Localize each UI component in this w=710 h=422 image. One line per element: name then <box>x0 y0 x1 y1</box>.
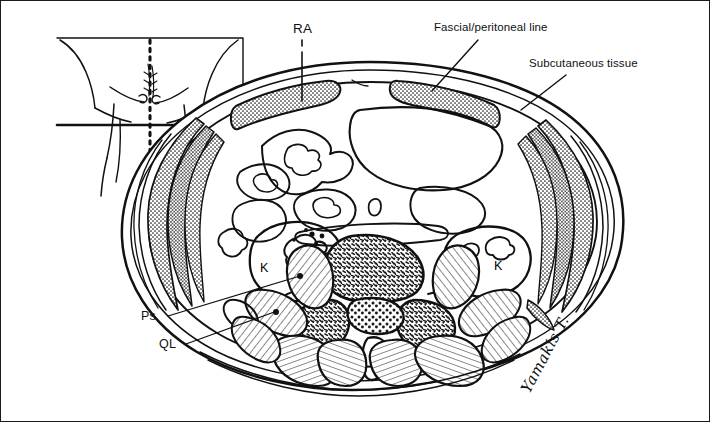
label-subcutaneous-tissue: Subcutaneous tissue <box>529 57 638 69</box>
figure-canvas: K K RA Fascial/peritoneal line Subcutane… <box>0 0 710 422</box>
label-ra: RA <box>293 21 312 36</box>
label-fascial-peritoneal-line: Fascial/peritoneal line <box>434 21 548 33</box>
spinal-canal-cauda-equina <box>348 298 404 334</box>
label-ps: Ps <box>141 309 156 323</box>
kidney-right-marker: K <box>494 259 503 273</box>
erector-spinae-right-2 <box>370 340 423 386</box>
label-ql: QL <box>159 337 176 351</box>
kidney-left-marker: K <box>260 261 269 275</box>
